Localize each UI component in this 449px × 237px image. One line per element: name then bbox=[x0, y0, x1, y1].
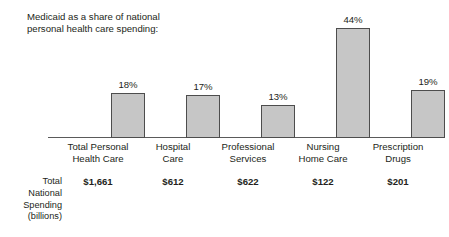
category-label-nursing-home-care: Nursing Home Care bbox=[281, 141, 365, 164]
category-label-professional-services: Professional Services bbox=[206, 141, 290, 164]
bar[interactable] bbox=[261, 105, 295, 138]
plot-area: 18% 17% 13% 44% 19% bbox=[48, 20, 425, 138]
bar[interactable] bbox=[111, 93, 145, 138]
spending-value: $122 bbox=[281, 176, 365, 187]
category-label-prescription-drugs: Prescription Drugs bbox=[356, 141, 440, 164]
category-label-hospital-care: Hospital Care bbox=[131, 141, 215, 164]
spending-value: $622 bbox=[206, 176, 290, 187]
bar-value-label: 19% bbox=[418, 76, 437, 87]
spending-value: $201 bbox=[356, 176, 440, 187]
spending-row-label: Total National Spending (billions) bbox=[2, 176, 62, 223]
bar-value-label: 17% bbox=[193, 81, 212, 92]
bar-value-label: 18% bbox=[118, 79, 137, 90]
bar[interactable] bbox=[186, 95, 220, 138]
bar[interactable] bbox=[411, 90, 445, 138]
spending-value: $1,661 bbox=[56, 176, 140, 187]
bar-value-label: 13% bbox=[268, 91, 287, 102]
bar-value-label: 44% bbox=[343, 14, 362, 25]
category-label-total-personal-health-care: Total Personal Health Care bbox=[56, 141, 140, 164]
bar[interactable] bbox=[336, 28, 370, 138]
spending-value: $612 bbox=[131, 176, 215, 187]
